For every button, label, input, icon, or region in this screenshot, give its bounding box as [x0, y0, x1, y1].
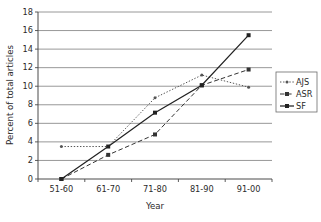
data-point-asr-61-70 [106, 153, 110, 157]
y-tick-label-14: 14 [23, 44, 33, 54]
y-tick-label-10: 10 [23, 81, 33, 91]
chart-container: 18 16 14 12 10 8 6 4 2 0 51-60 61-70 71-… [0, 0, 321, 222]
y-axis-title: Percent of total articles [5, 45, 15, 145]
data-point-ajs-51-60 [60, 145, 63, 148]
data-point-sf-71-80 [153, 111, 157, 115]
data-point-asr-91-00 [247, 68, 251, 72]
legend-label-asr: ASR [296, 89, 313, 99]
data-point-ajs-91-00 [247, 86, 250, 89]
data-point-ajs-81-90 [200, 74, 203, 77]
y-tick-label-12: 12 [23, 62, 33, 72]
x-axis-title: Year [145, 201, 165, 211]
y-tick-label-4: 4 [28, 136, 33, 146]
y-tick-label-6: 6 [28, 118, 33, 128]
data-point-sf-91-00 [247, 33, 251, 37]
x-tick-label-51-60: 51-60 [50, 184, 74, 194]
x-tick-label-71-80: 71-80 [143, 184, 167, 194]
y-tick-label-8: 8 [28, 99, 33, 109]
data-point-ajs-71-80 [154, 96, 157, 99]
y-tick-label-18: 18 [23, 7, 33, 17]
legend-marker-asr [285, 92, 289, 96]
data-point-sf-61-70 [106, 145, 110, 149]
legend-marker-ajs [286, 81, 289, 84]
legend: AJS ASR SF [276, 72, 317, 112]
y-tick-label-2: 2 [28, 155, 33, 165]
data-point-sf-81-90 [200, 83, 204, 87]
data-point-sf-51-60 [59, 177, 63, 181]
y-tick-label-16: 16 [23, 25, 33, 35]
legend-marker-sf [285, 104, 289, 108]
x-tick-label-61-70: 61-70 [96, 184, 120, 194]
data-point-asr-71-80 [153, 132, 157, 136]
x-tick-label-91-00: 91-00 [237, 184, 261, 194]
legend-label-ajs: AJS [296, 77, 309, 87]
x-tick-label-81-90: 81-90 [190, 184, 214, 194]
line-chart: 18 16 14 12 10 8 6 4 2 0 51-60 61-70 71-… [0, 0, 321, 222]
y-tick-label-0: 0 [28, 174, 33, 184]
legend-label-sf: SF [296, 101, 306, 111]
